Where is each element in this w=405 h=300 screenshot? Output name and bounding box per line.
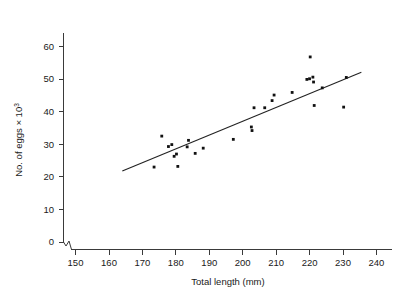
y-axis-title: No. of eggs × 103: [13, 103, 25, 177]
data-points-group: [153, 56, 348, 169]
x-tick-label: 240: [368, 257, 384, 268]
y-tick-label: 50: [43, 73, 54, 84]
data-point: [186, 145, 189, 148]
y-tick-label: 20: [43, 171, 54, 182]
data-point: [170, 143, 173, 146]
y-tick-labels: 0 10 20 30 40 50 60: [43, 41, 54, 248]
x-tick-label: 170: [134, 257, 150, 268]
data-point: [273, 94, 276, 97]
regression-line: [122, 72, 361, 171]
scatter-plot-figure: 0 10 20 30 40 50 60 150 160 170 180: [0, 0, 405, 300]
x-tick-label: 210: [268, 257, 284, 268]
x-axis-title: Total length (mm): [191, 276, 264, 287]
data-point: [251, 129, 254, 132]
data-point: [194, 152, 197, 155]
data-point: [175, 153, 178, 156]
x-tick-label: 200: [235, 257, 251, 268]
data-point: [291, 91, 294, 94]
data-point: [308, 77, 311, 80]
x-tick-label: 160: [101, 257, 117, 268]
data-point: [253, 106, 256, 109]
x-tick-label: 190: [201, 257, 217, 268]
data-point: [345, 76, 348, 79]
data-point: [309, 56, 312, 59]
axis-break-icon: [64, 241, 72, 250]
data-point: [263, 106, 266, 109]
y-tick-label: 60: [43, 41, 54, 52]
x-tick-marks: [76, 250, 377, 256]
data-point: [232, 138, 235, 141]
data-point: [305, 78, 308, 81]
x-tick-label: 150: [68, 257, 84, 268]
x-tick-label: 220: [302, 257, 318, 268]
data-point: [342, 106, 345, 109]
y-tick-label: 0: [49, 236, 54, 247]
chart-canvas: 0 10 20 30 40 50 60 150 160 170 180: [0, 0, 405, 300]
data-point: [167, 145, 170, 148]
y-axis-title-exponent: 3: [13, 103, 20, 107]
data-point: [312, 81, 315, 84]
data-point: [321, 86, 324, 89]
data-point: [313, 104, 316, 107]
y-tick-label: 10: [43, 204, 54, 215]
y-tick-label: 30: [43, 139, 54, 150]
data-point: [250, 126, 253, 129]
data-point: [187, 139, 190, 142]
data-point: [271, 99, 274, 102]
data-point: [202, 147, 205, 150]
svg-text:No. of eggs × 103: No. of eggs × 103: [13, 103, 25, 177]
data-point: [153, 166, 156, 169]
data-point: [311, 76, 314, 79]
data-point: [176, 165, 179, 168]
y-tick-label: 40: [43, 106, 54, 117]
x-tick-label: 180: [168, 257, 184, 268]
y-tick-marks: [59, 47, 64, 243]
y-axis-title-main: No. of eggs: [13, 126, 24, 177]
x-tick-label: 230: [335, 257, 351, 268]
data-point: [160, 135, 163, 138]
y-axis-title-times: × 10: [13, 107, 24, 126]
x-tick-labels: 150 160 170 180 190 200 210 220 230 240: [68, 257, 385, 268]
